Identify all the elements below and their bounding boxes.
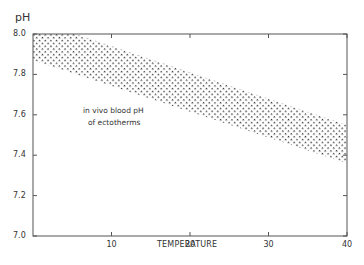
- x-tick-label: 20: [185, 240, 195, 249]
- y-tick-label: 7.4: [13, 150, 26, 159]
- annotation-line-2: of ectotherms: [88, 118, 140, 127]
- y-tick-label: 7.0: [13, 231, 26, 240]
- annotation-line-1: in vivo blood pH: [83, 106, 144, 115]
- x-tick-label: 30: [264, 240, 274, 249]
- y-tick-label: 7.2: [13, 191, 26, 200]
- y-tick-label: 7.6: [13, 110, 26, 119]
- y-tick-label: 8.0: [13, 29, 26, 38]
- x-tick-label: 10: [107, 240, 117, 249]
- y-tick-label: 7.8: [13, 69, 26, 78]
- y-axis-label: pH: [15, 11, 30, 24]
- x-tick-label: 40: [342, 240, 352, 249]
- ph-band: [33, 20, 347, 163]
- chart-canvas: [0, 0, 364, 265]
